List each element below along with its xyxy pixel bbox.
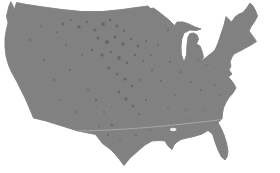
terrain-speckle [150, 54, 152, 56]
terrain-speckle [167, 29, 169, 31]
terrain-speckle [123, 30, 125, 32]
terrain-speckle [40, 25, 42, 27]
map-grain-texture [0, 0, 280, 173]
terrain-speckle [200, 89, 202, 91]
us-map-canvas [0, 0, 280, 173]
terrain-speckle [86, 21, 88, 23]
gulf-coast-inlet-shape [170, 128, 176, 131]
terrain-speckle [139, 79, 141, 81]
terrain-speckle [118, 91, 121, 94]
terrain-speckle [124, 97, 127, 100]
terrain-speckle [157, 44, 159, 46]
terrain-speckle [197, 59, 199, 61]
terrain-speckle [142, 60, 144, 62]
terrain-speckle [160, 80, 162, 82]
terrain-speckle [123, 77, 126, 80]
terrain-speckle [117, 56, 121, 60]
map-figure [0, 0, 280, 173]
terrain-speckle [219, 94, 220, 95]
terrain-speckle [174, 94, 176, 96]
terrain-speckle [77, 25, 80, 28]
terrain-speckle [43, 59, 45, 61]
terrain-speckle [81, 54, 83, 56]
terrain-speckle [185, 109, 187, 111]
terrain-speckle [116, 73, 119, 76]
terrain-speckle [109, 19, 112, 22]
terrain-speckle [107, 134, 109, 136]
terrain-speckle [111, 124, 114, 127]
terrain-speckle [151, 69, 153, 71]
terrain-speckle [100, 53, 103, 56]
terrain-speckle [137, 45, 140, 48]
terrain-speckle [130, 38, 133, 41]
terrain-speckle [110, 51, 113, 54]
terrain-speckle [190, 81, 192, 83]
terrain-speckle [134, 54, 136, 56]
terrain-speckle [180, 71, 182, 73]
terrain-speckle [96, 36, 99, 39]
terrain-speckle [101, 22, 105, 26]
terrain-speckle [69, 69, 71, 71]
terrain-speckle [116, 25, 119, 28]
terrain-speckle [114, 36, 117, 39]
terrain-speckle [169, 61, 171, 63]
terrain-speckle [214, 84, 216, 86]
terrain-speckle [205, 64, 206, 65]
terrain-speckle [209, 71, 211, 73]
terrain-speckle [87, 89, 89, 91]
terrain-speckle [126, 62, 129, 65]
terrain-speckle [159, 119, 161, 121]
terrain-speckle [204, 109, 205, 110]
terrain-speckle [145, 99, 147, 101]
terrain-speckle [94, 29, 97, 32]
terrain-speckle [189, 119, 190, 120]
terrain-speckle [29, 39, 31, 41]
terrain-speckle [145, 40, 147, 42]
terrain-speckle [53, 79, 55, 81]
terrain-speckle [103, 111, 105, 113]
terrain-speckle [149, 129, 151, 131]
terrain-speckle [65, 44, 67, 46]
terrain-speckle [70, 19, 72, 21]
terrain-speckle [98, 126, 100, 128]
terrain-speckle [95, 99, 97, 101]
terrain-speckle [167, 107, 169, 109]
terrain-speckle [131, 85, 133, 87]
terrain-speckle [135, 134, 137, 136]
terrain-speckle [108, 67, 111, 70]
terrain-speckle [132, 105, 135, 108]
terrain-speckle [59, 99, 61, 101]
terrain-speckle [119, 139, 121, 141]
terrain-speckle [56, 31, 58, 33]
terrain-speckle [75, 111, 77, 113]
terrain-speckle [138, 113, 140, 115]
terrain-speckle [121, 42, 124, 45]
terrain-speckle [62, 23, 65, 26]
terrain-speckle [91, 49, 93, 51]
terrain-speckle [105, 40, 109, 44]
